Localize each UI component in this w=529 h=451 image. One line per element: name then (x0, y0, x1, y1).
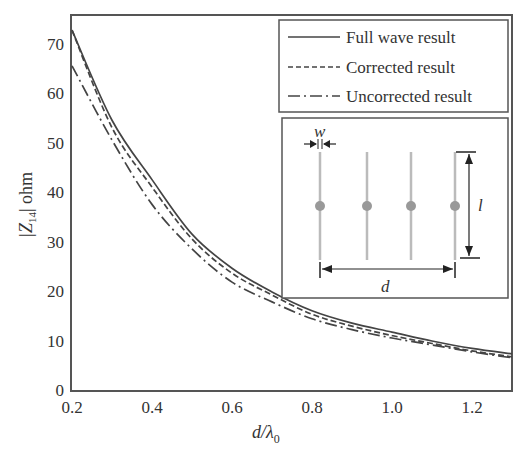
x-tick-label: 0.8 (301, 398, 322, 417)
x-tick-label: 0.6 (221, 398, 242, 417)
y-tick-label: 30 (47, 233, 64, 252)
y-tick-label: 10 (47, 332, 64, 351)
y-tick-label: 50 (47, 134, 64, 153)
x-tick-label: 1.0 (381, 398, 402, 417)
w-label: w (314, 122, 326, 141)
chart: 010203040506070 0.20.40.60.81.01.2 |Z14|… (0, 0, 529, 451)
legend: Full wave result Corrected result Uncorr… (279, 20, 508, 112)
x-tick-label: 1.2 (461, 398, 482, 417)
x-tick-label: 0.4 (141, 398, 163, 417)
y-tick-label: 20 (47, 282, 64, 301)
y-axis-label: |Z14| ohm (16, 172, 38, 238)
y-tick-label: 40 (47, 183, 64, 202)
legend-label: Uncorrected result (346, 87, 472, 106)
legend-label: Full wave result (346, 28, 456, 47)
x-tick-label: 0.2 (61, 398, 82, 417)
x-tick-labels: 0.20.40.60.81.01.2 (61, 398, 482, 417)
x-axis-label: d/λ0 (252, 422, 280, 446)
y-tick-labels: 010203040506070 (47, 35, 64, 401)
y-tick-label: 60 (47, 84, 64, 103)
y-tick-label: 70 (47, 35, 64, 54)
inset-dipole-array: w l d (282, 118, 508, 298)
l-label: l (478, 196, 483, 215)
d-label: d (381, 277, 390, 296)
legend-label: Corrected result (346, 58, 455, 77)
